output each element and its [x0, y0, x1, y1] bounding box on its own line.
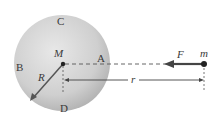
point-mass	[201, 61, 207, 67]
radius-label-R: R	[37, 71, 45, 83]
center-dot	[61, 62, 65, 66]
distance-label-r: r	[131, 73, 136, 85]
point-label-b: B	[16, 61, 23, 73]
point-mass-label-m: m	[200, 47, 208, 59]
gravitation-diagram: C B A D M R F m r	[0, 0, 218, 118]
mass-label-M: M	[53, 47, 64, 59]
point-label-c: C	[57, 15, 64, 27]
force-arrowhead	[164, 60, 174, 68]
point-label-d: D	[60, 102, 68, 114]
distance-arrowhead-right	[199, 78, 204, 82]
force-label-F: F	[176, 48, 184, 60]
point-label-a: A	[97, 52, 105, 64]
